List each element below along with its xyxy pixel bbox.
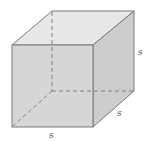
cube-diagram: s s s (0, 0, 147, 141)
label-width: s (49, 130, 54, 140)
label-depth: s (117, 108, 122, 118)
label-height: s (138, 47, 143, 57)
